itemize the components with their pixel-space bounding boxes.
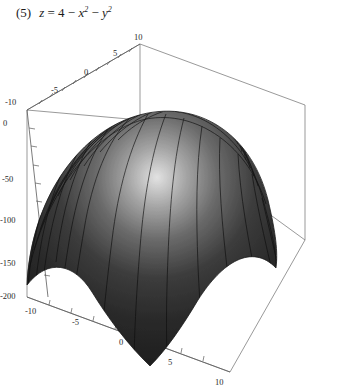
y-tick-label-0: -10	[25, 306, 36, 316]
y-tick-label-2: 0	[119, 337, 123, 347]
x-tick-label-3: 5	[113, 48, 117, 58]
z-tick-label-4: -200	[0, 291, 16, 301]
x-tick-label-0: -10	[5, 97, 16, 107]
z-tick-label-1: -50	[2, 174, 13, 184]
x-tick-label-1: -5	[51, 85, 58, 95]
y-tick-label-1: -5	[72, 317, 79, 327]
box-edge-top-right	[140, 44, 305, 105]
figure-container: (5)z = 4 − x2 − y2	[0, 0, 338, 392]
y-tick-label-4: 10	[215, 377, 224, 387]
y-tick-label-3: 5	[168, 357, 172, 367]
z-tick-label-3: -150	[0, 258, 16, 268]
paraboloid-surface	[27, 103, 286, 382]
x-tick-label-2: 0	[84, 67, 88, 77]
surface-plot: -10 -5 0 5 10 -10 -5 0 5 10 0 -50 -100 -…	[0, 0, 338, 392]
z-tick-label-0: 0	[3, 118, 7, 128]
box-edge-inner-left	[27, 110, 140, 120]
x-axis-line	[27, 44, 140, 110]
z-tick-label-2: -100	[0, 215, 16, 225]
surface-plot-svg: -10 -5 0 5 10 -10 -5 0 5 10 0 -50 -100 -…	[0, 0, 338, 392]
x-tick-label-4: 10	[134, 32, 143, 42]
